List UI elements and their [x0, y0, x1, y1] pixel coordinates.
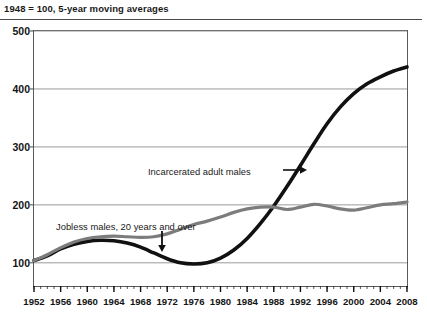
x-axis-tick-label: 1972 — [157, 296, 178, 307]
x-axis-tick-label: 1968 — [130, 296, 151, 307]
x-axis-tick-label: 1980 — [210, 296, 231, 307]
x-axis-tick-label: 1976 — [183, 296, 204, 307]
annotation-incarcerated-adult-males: Incarcerated adult males — [148, 166, 251, 177]
y-axis-tick-label: 500 — [0, 25, 30, 37]
x-axis-tick-label: 1996 — [316, 296, 337, 307]
x-axis-tick-label: 2004 — [370, 296, 391, 307]
chart-figure: 1948 = 100, 5-year moving averages 10020… — [0, 0, 427, 317]
x-axis-tick-label: 1988 — [263, 296, 284, 307]
x-axis-tick-label: 1984 — [236, 296, 257, 307]
y-axis-ticks — [30, 31, 34, 263]
x-axis-major-ticks — [34, 286, 407, 292]
y-axis-tick-label: 200 — [0, 199, 30, 211]
x-axis-tick-label: 1956 — [50, 296, 71, 307]
y-axis-tick-label: 400 — [0, 83, 30, 95]
x-axis-tick-label: 1952 — [23, 296, 44, 307]
x-axis-tick-label: 1964 — [103, 296, 124, 307]
chart-canvas — [0, 0, 427, 317]
y-axis-labels: 100200300400500 — [0, 0, 30, 317]
y-axis-tick-label: 100 — [0, 257, 30, 269]
y-axis-tick-label: 300 — [0, 141, 30, 153]
x-axis-tick-label: 2000 — [343, 296, 364, 307]
x-axis-tick-label: 1960 — [77, 296, 98, 307]
x-axis-tick-label: 2008 — [396, 296, 417, 307]
annotation-jobless-males: Jobless males, 20 years and over — [56, 221, 196, 232]
x-axis-tick-label: 1992 — [290, 296, 311, 307]
